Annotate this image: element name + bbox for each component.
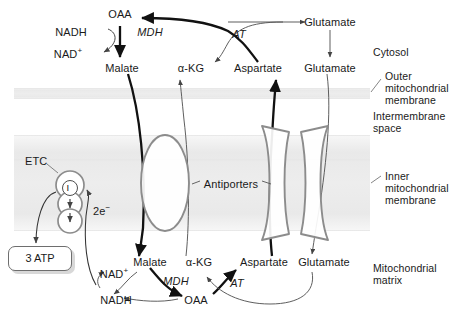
outer-mitochondrial-membrane-band	[14, 88, 370, 99]
label-matrix-line2: matrix	[373, 274, 402, 287]
complex-i-circle	[63, 181, 78, 196]
label-malate-cytosol: Malate	[105, 62, 139, 74]
label-aspartate-cytosol: Aspartate	[234, 62, 282, 74]
label-oaa-matrix: OAA	[184, 294, 208, 306]
label-oaa-cytosol: OAA	[108, 8, 132, 20]
label-cytosol: Cytosol	[373, 46, 409, 59]
label-at-matrix: AT	[230, 277, 243, 289]
label-outer-membrane-line2: mitochondrial	[385, 82, 449, 95]
label-3-atp: 3 ATP	[9, 252, 71, 264]
outer-membrane-leader	[371, 79, 381, 92]
malate-alpha-ketoglutarate-antiporter	[141, 135, 189, 231]
arrow-aspartate-to-oaa-cytosol	[142, 18, 258, 62]
label-akg-matrix: α-KG	[186, 256, 212, 268]
inner-membrane-leader	[371, 176, 381, 183]
label-nadh-matrix: NADH	[100, 294, 132, 306]
label-aspartate-matrix: Aspartate	[240, 256, 288, 268]
label-antiporters: Antiporters	[204, 178, 258, 190]
label-glutamate-cytosol-lower: Glutamate	[304, 62, 356, 74]
label-glutamate-matrix: Glutamate	[298, 256, 350, 268]
arrow-oaa-nadh-link-matrix	[124, 298, 178, 301]
label-nad-plus-cytosol: NAD+	[54, 48, 82, 60]
label-outer-membrane-line3: membrane	[385, 94, 436, 107]
arrow-glutamate-to-akg-matrix	[207, 272, 313, 304]
label-nad-plus-matrix: NAD+	[100, 268, 128, 280]
label-at-cytosol: AT	[232, 28, 245, 40]
label-inner-membrane-line1: Inner	[385, 170, 409, 183]
label-etc: ETC	[25, 155, 47, 167]
label-mdh-matrix: MDH	[163, 275, 188, 287]
label-glutamate-cytosol-top: Glutamate	[304, 16, 356, 28]
label-intermembrane-line1: Intermembrane	[373, 110, 446, 123]
label-two-electrons: 2e−	[93, 205, 110, 217]
label-inner-membrane-line3: membrane	[385, 194, 436, 207]
label-inner-membrane-line2: mitochondrial	[385, 182, 449, 195]
label-akg-cytosol: α-KG	[178, 62, 204, 74]
arrow-glutamate-to-akg-cytosol	[215, 22, 283, 62]
arrow-nadh-to-nad-cytosol	[104, 29, 115, 52]
atp-yield-box: 3 ATP	[8, 246, 72, 271]
label-intermembrane-line2: space	[373, 122, 402, 135]
malate-aspartate-shuttle-diagram: OAA NADH NAD+ MDH Malate α-KG Aspartate …	[0, 0, 467, 320]
label-matrix-line1: Mitochondrial	[373, 262, 437, 275]
label-nadh-cytosol: NADH	[55, 26, 87, 38]
label-malate-matrix: Malate	[133, 256, 167, 268]
label-mdh-cytosol: MDH	[137, 26, 162, 38]
label-outer-membrane-line1: Outer	[385, 70, 412, 83]
label-complex-i: I	[67, 182, 70, 194]
